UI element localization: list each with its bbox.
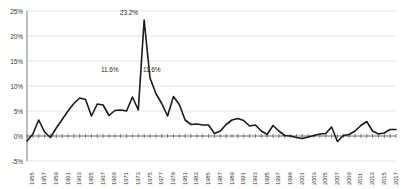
x-axis-tick-label: 1991: [240, 172, 246, 185]
x-axis-tick-label: 2001: [299, 172, 305, 185]
inflation-rate-line-chart: 25%20%15%10%5%0%-5%195519571959196119631…: [0, 0, 401, 189]
x-axis-tick-label: 1975: [147, 172, 153, 185]
x-axis-tick-label: 1997: [275, 172, 281, 185]
data-point-annotation: 11.6%: [143, 66, 160, 73]
y-axis-tick-label: 20%: [1, 33, 23, 40]
x-axis-tick-label: 2007: [334, 172, 340, 185]
x-axis-tick-label: 1963: [76, 172, 82, 185]
x-axis-tick-label: 2017: [393, 172, 399, 185]
x-axis-tick-label: 2015: [381, 172, 387, 185]
data-series-line: [27, 20, 396, 142]
x-axis-tick-label: 1979: [170, 172, 176, 185]
x-axis-tick-label: 1987: [217, 172, 223, 185]
x-axis-tick-label: 1965: [88, 172, 94, 185]
y-axis-tick-label: -5%: [1, 158, 23, 165]
y-axis-tick-label: 25%: [1, 8, 23, 15]
x-axis-tick-label: 1955: [29, 172, 35, 185]
data-point-annotation: 11.6%: [101, 66, 118, 73]
x-axis-tick-label: 1959: [53, 172, 59, 185]
x-axis-tick-label: 1967: [100, 172, 106, 185]
x-axis-tick-label: 2003: [311, 172, 317, 185]
x-axis-tick-label: 1977: [158, 172, 164, 185]
x-axis-tick-label: 2013: [369, 172, 375, 185]
x-axis-tick-label: 2009: [346, 172, 352, 185]
y-axis-tick-label: 10%: [1, 83, 23, 90]
x-axis-tick-label: 1989: [229, 172, 235, 185]
x-axis-tick-label: 1973: [135, 172, 141, 185]
x-axis-tick-label: 1971: [123, 172, 129, 185]
x-axis-tick-label: 1993: [252, 172, 258, 185]
y-axis-tick-label: 15%: [1, 58, 23, 65]
x-axis-tick-label: 1957: [41, 172, 47, 185]
y-axis-tick-label: 5%: [1, 108, 23, 115]
x-axis-tick-label: 1981: [182, 172, 188, 185]
x-axis-tick-label: 1995: [264, 172, 270, 185]
x-axis-tick-label: 1999: [287, 172, 293, 185]
x-axis-tick-label: 1961: [65, 172, 71, 185]
x-axis-tick-label: 1969: [111, 172, 117, 185]
x-axis-tick-label: 1985: [205, 172, 211, 185]
data-point-annotation: 23.2%: [120, 9, 138, 16]
x-axis-tick-label: 1983: [193, 172, 199, 185]
x-axis-tick-label: 2011: [357, 173, 363, 185]
x-axis-tick-label: 2005: [322, 172, 328, 185]
y-axis-tick-label: 0%: [1, 133, 23, 140]
chart-canvas: [0, 0, 401, 189]
